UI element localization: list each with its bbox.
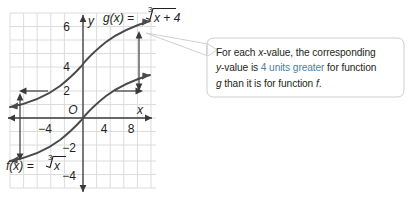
function-label-f-radicand: x [53,159,61,173]
x-tick-neg4: −4 [38,122,52,136]
callout-line3-b: . [319,78,322,89]
y-tick-neg4: −4 [62,169,76,183]
callout-line1-b: -value, the corresponding [263,47,375,58]
callout-line-3: g than it is for function f. [216,76,402,91]
y-tick-neg2: −2 [62,141,76,155]
x-tick-4: 4 [101,122,108,136]
function-label-g-prefix: g(x) = [103,11,134,25]
callout-line2-b: for function [324,62,376,73]
callout-line2-accent: 4 units greater [261,62,325,73]
function-label-g-radicand: x + 4 [153,11,181,25]
coordinate-graph-figure: 6 4 2 −2 −4 −4 4 8 O x y g(x) = 3 x + 4 … [0,0,412,202]
origin-label: O [68,103,77,117]
x-tick-8: 8 [128,122,135,136]
callout-line2-a: -value is [221,62,261,73]
callout-line-1: For each x-value, the corresponding [216,45,402,60]
y-tick-4: 4 [63,60,70,74]
callout-line1-a: For each [216,47,258,58]
callout-line3-a: than it is for function [222,78,316,89]
x-axis-label: x [136,103,144,117]
y-tick-6: 6 [63,20,70,34]
function-label-f-prefix: f(x) = [6,159,34,173]
y-axis-label: y [87,14,95,28]
callout-text: For each x-value, the corresponding y-va… [216,45,402,91]
callout-line-2: y-value is 4 units greater for function [216,60,402,75]
y-tick-2: 2 [63,84,70,98]
